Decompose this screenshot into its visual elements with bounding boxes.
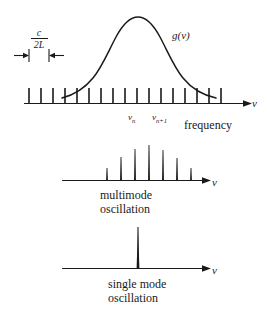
multimode-caption-line-2: oscillation xyxy=(100,202,152,216)
multimode-caption-line-1: multimode xyxy=(100,188,152,202)
nu-axis-label-singlemode: ν xyxy=(212,265,217,276)
mode-spacing-denominator: 2L xyxy=(22,39,56,51)
singlemode-axis-arrowhead xyxy=(202,265,211,272)
mode-spacing-numerator: c xyxy=(22,27,56,38)
singlemode-caption-line-1: single mode xyxy=(108,277,166,291)
mode-spacing-arrowheads xyxy=(23,53,55,58)
nu-axis-label-gain: ν xyxy=(252,98,257,109)
gain-curve-gaussian xyxy=(62,17,216,98)
panel-single-mode-oscillation xyxy=(62,227,211,272)
multimode-spike-stems xyxy=(107,145,191,180)
mode-label-nu-n: νn xyxy=(128,113,135,124)
mode-spacing-label: c 2L xyxy=(22,27,56,51)
mode-label-nu-n-subscript: n xyxy=(132,117,135,124)
frequency-axis-caption: frequency xyxy=(184,119,232,131)
mode-label-nu-n-plus-1: νn+1 xyxy=(152,113,167,124)
cavity-mode-ticks xyxy=(29,88,221,103)
multimode-caption: multimode oscillation xyxy=(100,188,152,216)
gain-curve-label: g(ν) xyxy=(172,30,190,41)
figure-root: c 2L g(ν) νn νn+1 frequency ν ν ν multim… xyxy=(0,0,269,319)
singlemode-caption: single mode oscillation xyxy=(108,277,166,305)
nu-axis-label-multimode: ν xyxy=(212,177,217,188)
frequency-axis-arrowhead xyxy=(243,100,252,107)
panel-multimode-oscillation xyxy=(62,145,211,184)
multimode-axis-arrowhead xyxy=(202,177,211,184)
singlemode-caption-line-2: oscillation xyxy=(108,291,166,305)
mode-label-nu-n-plus-1-subscript: n+1 xyxy=(156,117,167,124)
